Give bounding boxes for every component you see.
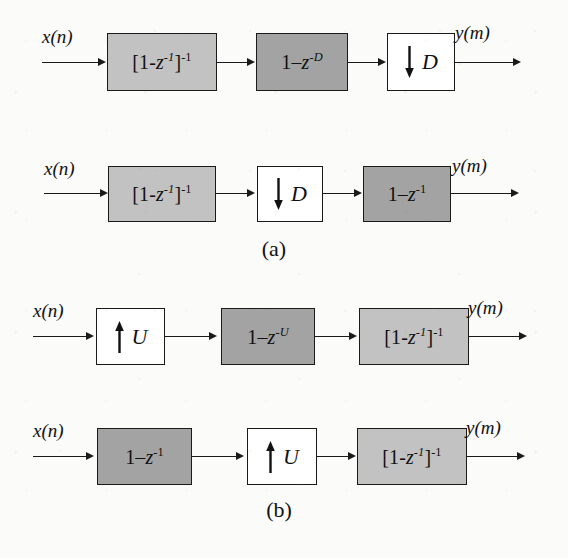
up-arrow-icon: [265, 440, 276, 474]
input-arrowhead: [86, 332, 94, 340]
link-arrowhead-2: [349, 332, 357, 340]
rate-factor-label: U: [283, 446, 299, 468]
link-arrowhead-2: [378, 58, 386, 66]
output-wire: [469, 336, 521, 337]
output-arrowhead: [511, 189, 519, 197]
block-interpolator[interactable]: U: [247, 428, 317, 485]
block-label: 1–z-1: [388, 184, 427, 204]
link-wire-1: [165, 336, 211, 337]
link-wire-2: [348, 62, 380, 63]
link-wire-1: [216, 193, 249, 194]
block-integrator[interactable]: [1-z-1]-1: [108, 166, 216, 222]
block-label: [1-z-1]-1: [132, 184, 191, 204]
input-arrowhead: [100, 189, 108, 197]
block-integrator[interactable]: [1-z-1]-1: [359, 308, 469, 365]
block-label: [1-z-1]-1: [382, 447, 441, 467]
rate-change-content: U: [265, 440, 299, 474]
output-arrowhead: [513, 58, 521, 66]
output-arrowhead: [519, 332, 527, 340]
link-arrowhead-1: [209, 332, 217, 340]
block-label: 1–z-D: [281, 52, 322, 72]
block-comb[interactable]: 1–z-1: [363, 166, 451, 222]
output-wire: [467, 456, 519, 457]
link-wire-1: [217, 62, 249, 63]
output-signal-label: y(m): [452, 155, 487, 177]
output-wire: [451, 193, 513, 194]
output-signal-label: y(m): [468, 297, 503, 319]
block-label: 1–z-1: [125, 447, 164, 467]
block-comb[interactable]: 1–z-1: [97, 428, 192, 485]
link-wire-2: [323, 193, 356, 194]
down-arrow-icon: [273, 177, 284, 211]
output-arrowhead: [517, 452, 525, 460]
input-wire: [33, 336, 88, 337]
block-decimator[interactable]: D: [257, 166, 323, 222]
output-signal-label: y(m): [455, 22, 490, 44]
down-arrow-icon: [404, 45, 415, 79]
input-wire: [44, 193, 102, 194]
block-integrator[interactable]: [1-z-1]-1: [357, 428, 467, 485]
input-arrowhead: [86, 452, 94, 460]
input-wire: [33, 456, 88, 457]
link-arrowhead-2: [348, 452, 356, 460]
rate-change-content: U: [114, 320, 148, 354]
rate-factor-label: D: [291, 183, 307, 205]
input-signal-label: x(n): [33, 420, 64, 442]
rate-change-content: D: [404, 45, 438, 79]
input-signal-label: x(n): [42, 26, 73, 48]
input-wire: [42, 62, 100, 63]
rate-factor-label: D: [422, 51, 438, 73]
link-arrowhead-2: [354, 189, 362, 197]
link-arrowhead-1: [236, 452, 244, 460]
up-arrow-icon: [114, 320, 125, 354]
block-decimator[interactable]: D: [387, 33, 455, 91]
block-comb[interactable]: 1–z-U: [221, 308, 315, 365]
link-wire-1: [192, 456, 238, 457]
input-signal-label: x(n): [33, 300, 64, 322]
block-comb[interactable]: 1–z-D: [256, 33, 348, 91]
block-label: 1–z-U: [247, 327, 288, 347]
block-interpolator[interactable]: U: [96, 308, 165, 365]
input-signal-label: x(n): [44, 158, 75, 180]
block-label: [1-z-1]-1: [384, 327, 443, 347]
link-arrowhead-1: [247, 189, 255, 197]
block-label: [1-z-1]-1: [132, 52, 191, 72]
output-wire: [455, 62, 515, 63]
input-arrowhead: [98, 58, 106, 66]
link-wire-2: [315, 336, 351, 337]
block-integrator[interactable]: [1-z-1]-1: [107, 33, 217, 91]
link-wire-2: [317, 456, 350, 457]
subfigure-caption-a: (a): [0, 236, 558, 262]
figure-canvas: x(n) [1-z-1]-1 1–z-D D y(m) x(n: [0, 0, 568, 558]
rate-factor-label: U: [132, 326, 148, 348]
rate-change-content: D: [273, 177, 307, 211]
subfigure-caption-b: (b): [0, 497, 563, 523]
link-arrowhead-1: [247, 58, 255, 66]
output-signal-label: y(m): [466, 417, 501, 439]
